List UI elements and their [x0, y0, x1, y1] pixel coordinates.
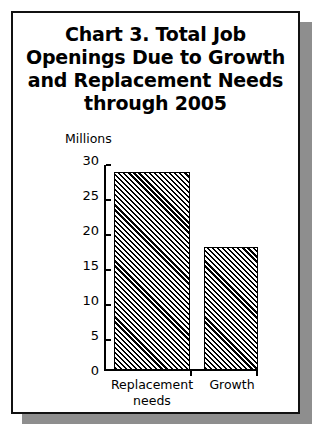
x-category-label-line: Replacement	[105, 377, 199, 393]
y-tick-mark-30	[106, 164, 111, 166]
bar-replacement-needs[interactable]	[114, 172, 190, 370]
y-tick-mark-5	[106, 339, 111, 341]
y-tick-mark-20	[106, 234, 111, 236]
y-tick-mark-25	[106, 199, 111, 201]
bar-growth[interactable]	[204, 247, 258, 370]
y-tick-label-20: 20	[71, 224, 99, 237]
plot-area: Millions 30 25 20 15 10 5 0	[13, 13, 298, 412]
y-tick-label-15: 15	[71, 259, 99, 272]
y-tick-label-30: 30	[71, 154, 99, 167]
x-category-label-replacement-needs: Replacement needs	[105, 377, 199, 409]
x-tick-mark-center	[190, 371, 192, 376]
y-tick-label-0: 0	[71, 364, 99, 377]
y-axis-unit-label: Millions	[65, 131, 112, 146]
y-tick-label-25: 25	[71, 189, 99, 202]
x-tick-mark-end	[256, 371, 258, 376]
y-tick-mark-15	[106, 269, 111, 271]
x-category-label-line: needs	[105, 393, 199, 409]
x-category-label-growth: Growth	[199, 377, 265, 393]
y-tick-label-10: 10	[71, 294, 99, 307]
figure-frame: Chart 3. Total Job Openings Due to Growt…	[11, 11, 300, 414]
y-axis-line	[104, 165, 106, 371]
x-category-label-line: Growth	[199, 377, 265, 393]
chart-page: Chart 3. Total Job Openings Due to Growt…	[0, 0, 328, 430]
y-tick-label-5: 5	[71, 329, 99, 342]
y-tick-mark-10	[106, 304, 111, 306]
